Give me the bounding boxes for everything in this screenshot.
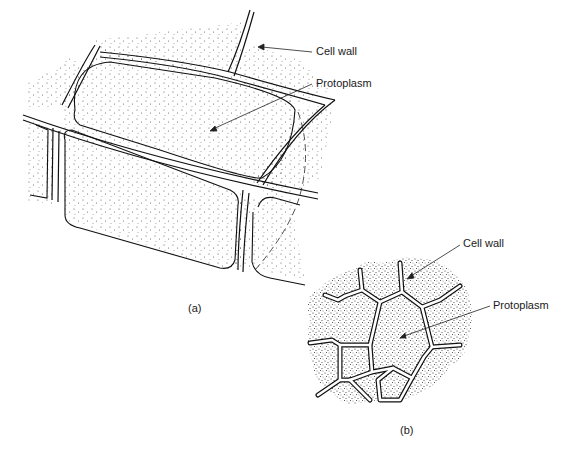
panel-a-caption: (a) xyxy=(188,302,201,314)
panel-a-cell-wall-label: Cell wall xyxy=(316,45,357,57)
panel-b-caption: (b) xyxy=(400,424,413,436)
panel-b-illustration xyxy=(308,245,490,404)
panel-b-protoplasm-label: Protoplasm xyxy=(493,299,549,311)
panel-a-illustration xyxy=(23,10,335,285)
diagram-canvas xyxy=(0,0,564,449)
panel-b-cell-wall-label: Cell wall xyxy=(463,237,504,249)
panel-a-protoplasm-label: Protoplasm xyxy=(316,77,372,89)
